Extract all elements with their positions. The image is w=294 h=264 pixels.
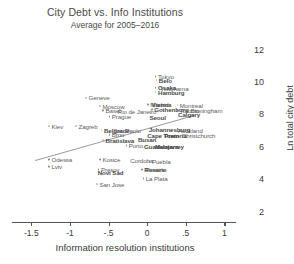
data-point-label: Zagreb [75, 122, 97, 129]
point-marker-icon [48, 158, 50, 160]
point-label-text: Odessa [51, 155, 72, 162]
x-axis-title: Information resolution institutions [0, 242, 250, 253]
data-point-label: Prague [109, 113, 132, 120]
x-tick-mark [186, 222, 187, 226]
point-marker-icon [126, 145, 128, 147]
x-tick-label: .5 [182, 228, 189, 238]
point-label-text: Puebla [152, 158, 171, 165]
point-marker-icon [75, 125, 77, 127]
data-point-label: Porto [126, 142, 143, 149]
data-point-label: Geneve [85, 94, 109, 101]
x-tick-label: -.5 [104, 228, 114, 238]
point-marker-icon [156, 79, 158, 81]
point-marker-icon [96, 183, 98, 185]
point-label-text: Novi Sad [98, 169, 124, 176]
point-label-text: Zagreb [79, 122, 98, 129]
data-point-label: Puebla [149, 158, 171, 165]
data-point-label: Christchurch [182, 132, 216, 139]
point-label-text: Hamburg [158, 88, 184, 95]
data-point-label: Lviv [48, 162, 62, 169]
point-marker-icon [99, 159, 101, 161]
point-marker-icon [149, 161, 151, 163]
data-point-label: Hamburg [155, 88, 185, 95]
data-point-label: Calgary [178, 110, 200, 117]
data-point-label: Pereira [146, 166, 165, 173]
point-label-text: Prague [112, 113, 131, 120]
x-tick-mark [31, 222, 32, 226]
point-marker-icon [48, 125, 50, 127]
data-point-label: Belo [156, 76, 172, 83]
point-label-text: Kiev [51, 122, 63, 129]
y-axis-title: Ln total city debt [285, 85, 294, 151]
data-point-label: Kiev [48, 122, 63, 129]
y-tick-label: 8 [259, 109, 264, 119]
point-label-text: Calgary [178, 110, 200, 117]
point-marker-icon [102, 109, 104, 111]
point-marker-icon [99, 105, 101, 107]
x-tick-label: -1 [66, 228, 74, 238]
data-point-label: La Plata [143, 175, 168, 182]
x-tick-label: -1.5 [24, 228, 39, 238]
y-tick-label: 4 [259, 174, 264, 184]
x-axis-line [12, 222, 236, 223]
point-marker-icon [102, 139, 104, 141]
point-marker-icon [48, 165, 50, 167]
point-label-text: Kosice [102, 156, 120, 163]
point-label-text: Geneve [89, 94, 110, 101]
point-marker-icon [101, 129, 103, 131]
scatter-chart: City Debt vs. Info Institutions Average … [0, 0, 294, 264]
plot-area: TokyoBeloOsakaYokohamaHamburgMadridVienn… [12, 40, 236, 218]
x-tick-mark [70, 222, 71, 226]
point-label-text: Lviv [51, 162, 62, 169]
point-marker-icon [147, 104, 149, 106]
point-marker-icon [143, 178, 145, 180]
data-point-label: Monterrey [155, 143, 184, 150]
point-label-text: Monterrey [155, 143, 184, 150]
point-label-text: Seoul [149, 113, 165, 120]
x-tick-label: 1 [222, 228, 227, 238]
data-point-label: Seoul [149, 113, 165, 120]
point-label-text: La Plata [146, 175, 168, 182]
point-marker-icon [85, 97, 87, 99]
chart-title-block: City Debt vs. Info Institutions Average … [0, 6, 230, 31]
point-marker-icon [141, 169, 143, 171]
point-label-text: Christchurch [182, 132, 216, 139]
data-point-label: Novi Sad [98, 169, 124, 176]
data-point-label: Kosice [99, 156, 120, 163]
y-tick-label: 12 [254, 45, 264, 55]
data-point-label: San Jose [96, 180, 124, 187]
x-tick-label: 0 [145, 228, 150, 238]
y-tick-label: 10 [254, 77, 264, 87]
point-marker-icon [155, 91, 157, 93]
y-tick-label: 6 [259, 142, 264, 152]
point-label-text: Pereira [146, 166, 165, 173]
point-label-text: San Jose [99, 180, 124, 187]
chart-subtitle: Average for 2005–2016 [0, 20, 230, 31]
y-tick-label: 2 [259, 207, 264, 217]
data-point-label: Odessa [48, 155, 72, 162]
x-tick-mark [109, 222, 110, 226]
point-label-text: Porto [129, 142, 143, 149]
x-tick-mark [147, 222, 148, 226]
point-label-text: Belo [159, 76, 172, 83]
point-marker-icon [109, 116, 111, 118]
x-tick-mark [224, 222, 225, 226]
chart-title: City Debt vs. Info Institutions [0, 6, 230, 19]
